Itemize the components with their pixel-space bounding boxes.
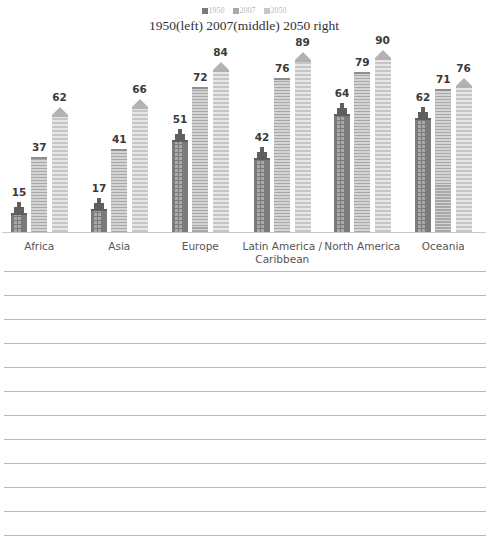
ruled-line	[4, 415, 486, 416]
building-bar-2050	[456, 78, 472, 232]
building-bar-2007	[111, 149, 127, 232]
data-label: 62	[408, 91, 438, 103]
category-label: North America	[317, 240, 407, 253]
building-body	[354, 72, 370, 232]
ruled-line	[4, 295, 486, 296]
building-bar-2007	[274, 78, 290, 232]
data-label: 79	[347, 56, 377, 68]
building-bar-1950	[11, 202, 27, 232]
building-bar-2050	[52, 107, 68, 232]
data-label: 72	[185, 71, 215, 83]
building-body	[375, 58, 391, 232]
building-bar-2007	[192, 87, 208, 232]
data-label: 17	[84, 182, 114, 194]
building-body	[254, 158, 270, 232]
building-body	[213, 70, 229, 232]
building-bar-1950	[254, 147, 270, 232]
building-bar-2007	[354, 72, 370, 232]
data-label: 76	[267, 62, 297, 74]
data-label: 37	[24, 141, 54, 153]
ruled-line	[4, 391, 486, 392]
category-label: Oceania	[398, 240, 488, 253]
data-label: 51	[165, 113, 195, 125]
building-bar-2050	[132, 99, 148, 232]
category-label: Asia	[74, 240, 164, 253]
ruled-line	[4, 271, 486, 272]
ruled-line	[4, 487, 486, 488]
building-body	[295, 60, 311, 232]
data-label: 15	[4, 186, 34, 198]
building-bar-1950	[334, 103, 350, 232]
building-body	[334, 114, 350, 232]
building-body	[435, 89, 451, 232]
building-body	[11, 213, 27, 232]
building-bar-2050	[375, 50, 391, 232]
building-bar-2007	[435, 89, 451, 232]
building-body	[111, 149, 127, 232]
ruled-line	[4, 439, 486, 440]
ruled-line	[4, 319, 486, 320]
building-bar-2007	[31, 157, 47, 232]
category-label: Latin America / Caribbean	[242, 240, 322, 266]
ruled-line	[4, 343, 486, 344]
category-label: Europe	[155, 240, 245, 253]
building-bar-2050	[213, 62, 229, 232]
data-label: 64	[327, 87, 357, 99]
building-bar-1950	[415, 107, 431, 232]
building-body	[52, 115, 68, 232]
building-body	[91, 209, 107, 232]
data-label: 76	[449, 62, 479, 74]
building-body	[192, 87, 208, 232]
data-label: 89	[288, 36, 318, 48]
building-body	[132, 107, 148, 232]
ruled-line	[4, 511, 486, 512]
data-label: 66	[125, 83, 155, 95]
building-body	[415, 118, 431, 232]
building-bar-1950	[172, 129, 188, 232]
data-label: 84	[206, 46, 236, 58]
ruled-line	[4, 463, 486, 464]
x-axis-baseline	[2, 232, 486, 233]
building-body	[274, 78, 290, 232]
chart-area: 153762Africa174166Asia517284Europe427689…	[0, 0, 488, 270]
ruled-line	[4, 535, 486, 536]
building-bar-1950	[91, 198, 107, 232]
data-label: 41	[104, 133, 134, 145]
category-label: Africa	[0, 240, 84, 253]
data-label: 62	[45, 91, 75, 103]
data-label: 90	[368, 34, 398, 46]
ruled-line	[4, 367, 486, 368]
building-body	[456, 86, 472, 232]
data-label: 42	[247, 131, 277, 143]
building-bar-2050	[295, 52, 311, 232]
building-body	[172, 140, 188, 232]
building-body	[31, 157, 47, 232]
